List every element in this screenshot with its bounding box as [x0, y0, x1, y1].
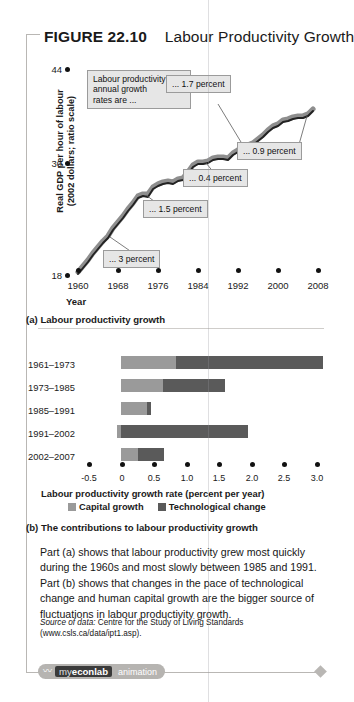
bar-row-label-2002-2007: 2002–2007	[28, 451, 75, 462]
bx-tick-15-label: 1.5	[213, 473, 226, 483]
x-tick-1992-label: 1992	[227, 280, 248, 291]
myeconlab-logo: myeconlab	[55, 666, 112, 678]
bx-tick-20-dot	[250, 462, 255, 467]
x-tick-1960-dot	[76, 268, 81, 273]
x-tick-1976: 1976	[141, 280, 175, 291]
animation-label: animation	[118, 667, 157, 677]
bx-tick-0: 0	[107, 473, 137, 483]
callout-1-7-percent: ... 1.7 percent	[166, 75, 231, 93]
bx-tick-neg05-label: -0.5	[81, 473, 97, 483]
callout-1-5-percent: ... 1.5 percent	[143, 200, 208, 218]
x-tick-2000: 2000	[261, 280, 295, 291]
x-tick-1968: 1968	[101, 280, 135, 291]
bx-tick-30-label: 3.0	[311, 473, 324, 483]
myeconlab-logo-econlab: econlab	[72, 666, 108, 677]
panel-b-legend: Capital growth Technological change	[68, 502, 266, 512]
callout-3-percent: ... 3 percent	[103, 250, 160, 268]
bar-segment-tech-1961-1973	[176, 356, 323, 369]
bar-segment-tech-1991-2002	[121, 425, 248, 438]
x-tick-2008-label: 2008	[307, 280, 328, 291]
bx-tick-0-label: 0	[119, 473, 124, 483]
legend-swatch-technological-change	[158, 503, 166, 511]
panel-b-label: (b) The contributions to labour producti…	[26, 522, 258, 533]
x-tick-1976-label: 1976	[147, 280, 168, 291]
bar-segment-tech-1985-1991	[147, 402, 151, 415]
scan-artifact-line	[208, 0, 209, 702]
callout-0-4-percent: ... 0.4 percent	[183, 169, 248, 187]
x-tick-1960-label: 1960	[67, 280, 88, 291]
bar-row-label-1973-1985: 1973–1985	[28, 382, 75, 393]
panel-a-x-axis-title: Year	[66, 296, 86, 307]
x-tick-1976-dot	[156, 268, 161, 273]
legend-swatch-capital-growth	[68, 503, 76, 511]
figure-title-text: Labour Productivity Growth	[165, 28, 354, 45]
legend-label-capital-growth: Capital growth	[79, 502, 144, 512]
x-tick-2000-dot	[276, 268, 281, 273]
bar-segment-tech-2002-2007	[138, 448, 164, 461]
x-tick-1992-dot	[236, 268, 241, 273]
panel-a-label: (a) Labour productivity growth	[26, 314, 165, 325]
myeconlab-logo-my: my	[59, 666, 72, 677]
bx-tick-10-dot	[185, 462, 190, 467]
bar-row-label-1985-1991: 1985–1991	[28, 405, 75, 416]
legend-label-technological-change: Technological change	[169, 502, 266, 512]
panel-b-bar-chart: 1961–1973 1973–1985 1985–1991 1991–2002 …	[26, 334, 326, 504]
productivity-line-shadow	[78, 109, 313, 272]
bx-tick-0-dot	[120, 462, 125, 467]
callout-0-9-percent: ... 0.9 percent	[237, 142, 302, 160]
bx-tick-15-dot	[217, 462, 222, 467]
bx-tick-10: 1.0	[172, 473, 202, 483]
x-tick-1992: 1992	[221, 280, 255, 291]
bar-row-label-1961-1973: 1961–1973	[28, 359, 75, 370]
x-tick-2008: 2008	[301, 280, 335, 291]
x-tick-1984: 1984	[181, 280, 215, 291]
bx-tick-20: 2.0	[237, 473, 267, 483]
figure-top-rule	[26, 34, 40, 35]
bx-tick-10-label: 1.0	[181, 473, 194, 483]
bx-tick-25-dot	[282, 462, 287, 467]
figure-end-diamond	[314, 665, 327, 678]
x-tick-1984-dot	[196, 268, 201, 273]
panel-b-x-axis-title: Labour productivity growth rate (percent…	[41, 488, 264, 499]
bar-segment-capital-1985-1991	[121, 402, 147, 415]
bar-segment-capital-2002-2007	[121, 448, 138, 461]
bx-tick-05-dot	[152, 462, 157, 467]
figure-source: Source of data: Centre for the Study of …	[40, 617, 317, 639]
source-lead: Source of data:	[40, 618, 96, 627]
bx-tick-25-label: 2.5	[278, 473, 291, 483]
bx-tick-05-label: 0.5	[148, 473, 161, 483]
bar-segment-capital-1973-1985	[121, 379, 163, 392]
bx-tick-neg05-dot	[87, 462, 92, 467]
leader-line-17pct	[218, 104, 244, 147]
myeconlab-badge[interactable]: 〰 myeconlab animation	[38, 664, 165, 679]
bx-tick-30-dot	[315, 462, 320, 467]
x-tick-1968-dot	[116, 268, 121, 273]
figure-number: FIGURE 22.10	[44, 28, 147, 45]
x-tick-2000-label: 2000	[267, 280, 288, 291]
bx-tick-30: 3.0	[302, 473, 332, 483]
panel-divider	[38, 328, 324, 329]
x-tick-1968-label: 1968	[107, 280, 128, 291]
bx-tick-20-label: 2.0	[246, 473, 259, 483]
wave-icon: 〰	[43, 667, 52, 676]
figure-title: FIGURE 22.10 Labour Productivity Growth	[44, 28, 344, 50]
panel-a-line-chart: Real GDP per hour of labour (2002 dollar…	[26, 52, 326, 300]
figure-caption: Part (a) shows that labour productivity …	[40, 545, 317, 622]
x-tick-2008-dot	[316, 268, 321, 273]
x-tick-1960: 1960	[61, 280, 95, 291]
bx-tick-neg05: -0.5	[74, 473, 104, 483]
x-tick-1984-label: 1984	[187, 280, 208, 291]
bx-tick-25: 2.5	[269, 473, 299, 483]
myeconlab-pill[interactable]: 〰 myeconlab animation	[38, 664, 165, 679]
bar-segment-capital-1961-1973	[121, 356, 176, 369]
bar-row-label-1991-2002: 1991–2002	[28, 428, 75, 439]
bx-tick-05: 0.5	[139, 473, 169, 483]
bar-segment-tech-1973-1985	[163, 379, 225, 392]
